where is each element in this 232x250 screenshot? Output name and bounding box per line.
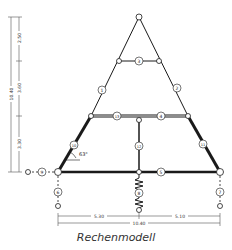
node-mid-left [89, 114, 94, 119]
node-bottom-right [217, 169, 224, 176]
vertical-total-label: 10.40 [9, 87, 14, 100]
member-label-9: 9 [38, 168, 46, 176]
member-label-10: 10 [70, 141, 78, 149]
member-label-1: 1 [98, 86, 106, 94]
node-left-end [26, 170, 31, 175]
svg-text:7: 7 [219, 190, 222, 195]
horizontal-right-label: 5.10 [175, 214, 185, 219]
svg-text:6: 6 [57, 190, 60, 195]
svg-text:8: 8 [138, 191, 141, 196]
angle-label: 63° [79, 151, 88, 157]
member-label-8: 8 [135, 189, 143, 197]
member-label-6: 6 [54, 188, 62, 196]
svg-text:12: 12 [137, 145, 142, 149]
spring-lower [135, 196, 143, 208]
spring-upper [135, 174, 143, 190]
horizontal-left-label: 5.30 [94, 214, 104, 219]
left-upper-chord [91, 17, 139, 116]
node-left-bottom-end [56, 204, 61, 209]
node-apex [136, 14, 142, 20]
vertical-segment-label-2: 3.60 [17, 83, 22, 93]
svg-text:3: 3 [138, 59, 141, 64]
right-upper-chord [139, 17, 188, 116]
member-label-2: 2 [173, 84, 181, 92]
node-spring-end [137, 208, 142, 213]
node-mid-right [186, 114, 191, 119]
horizontal-total-label: 10.40 [133, 221, 146, 226]
svg-text:9: 9 [41, 170, 44, 175]
svg-text:4: 4 [160, 114, 163, 119]
node-mid-center [137, 118, 142, 123]
node-upper-left [117, 59, 122, 64]
svg-text:13: 13 [115, 115, 120, 119]
svg-text:10: 10 [72, 144, 77, 148]
member-label-13: 13 [113, 112, 121, 120]
structural-model-diagram: 1 2 3 4 5 6 7 8 9 10 11 12 13 63° 10.40 … [0, 0, 232, 250]
member-label-11: 11 [199, 140, 207, 148]
member-label-4: 4 [157, 112, 165, 120]
vertical-segment-label-3: 3.30 [17, 139, 22, 149]
node-upper-right [157, 59, 162, 64]
svg-text:1: 1 [101, 88, 104, 93]
node-bottom-left [55, 169, 62, 176]
member-label-7: 7 [216, 188, 224, 196]
member-label-12: 12 [135, 142, 143, 150]
svg-text:5: 5 [160, 170, 163, 175]
member-label-5: 5 [157, 168, 165, 176]
node-bottom-center [137, 170, 142, 175]
vertical-segment-label-1: 2.50 [17, 33, 22, 43]
member-label-3: 3 [135, 57, 143, 65]
svg-text:11: 11 [201, 143, 206, 147]
node-right-bottom-end [218, 204, 223, 209]
svg-text:2: 2 [176, 86, 179, 91]
figure-caption: Rechenmodell [0, 231, 232, 244]
